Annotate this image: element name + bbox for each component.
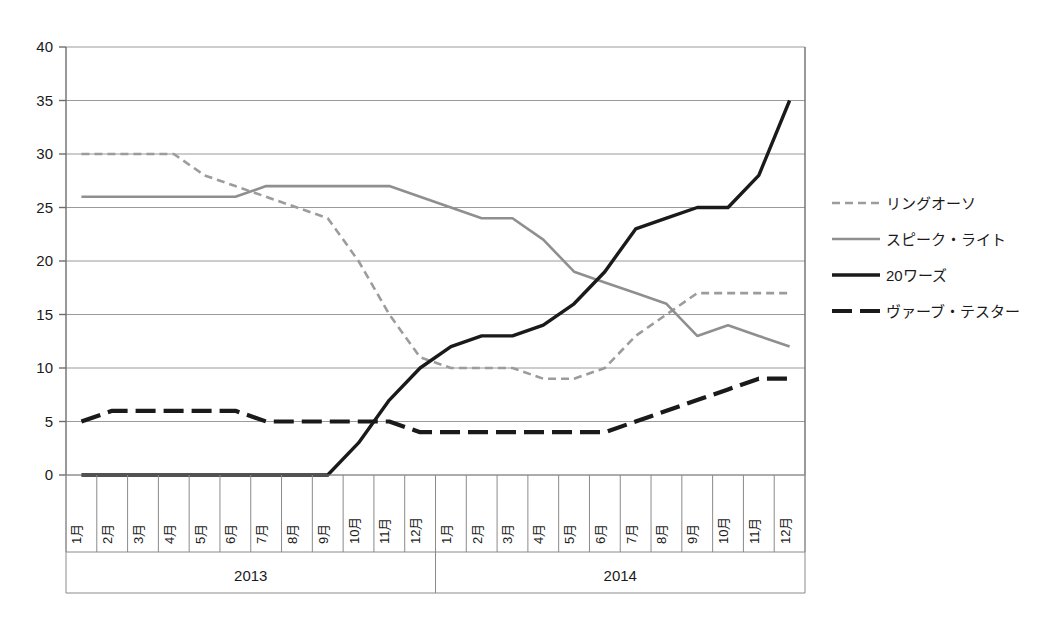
- x-month-label: 6月: [223, 524, 238, 544]
- x-month-label: 9月: [316, 524, 331, 544]
- x-month-label: 12月: [778, 517, 793, 544]
- series-layer: [81, 101, 789, 476]
- series-line-2: [81, 101, 789, 476]
- y-tick-label: 40: [36, 38, 53, 55]
- line-chart: 0510152025303540 1月2月3月4月5月6月7月8月9月10月11…: [0, 0, 1046, 619]
- legend: リングオーソスピーク・ライト20ワーズヴァーブ・テスター: [832, 195, 1020, 320]
- x-month-label: 10月: [347, 517, 362, 544]
- y-tick-label: 30: [36, 145, 53, 162]
- y-tick-label: 35: [36, 92, 53, 109]
- series-line-1: [81, 186, 789, 347]
- x-month-label: 12月: [408, 517, 423, 544]
- x-year-label: 2014: [604, 567, 637, 584]
- x-month-label: 4月: [531, 524, 546, 544]
- x-month-label: 1月: [439, 524, 454, 544]
- series-line-0: [81, 154, 789, 379]
- x-month-label: 2月: [470, 524, 485, 544]
- y-tick-label: 5: [45, 413, 53, 430]
- x-month-label: 8月: [654, 524, 669, 544]
- legend-label-2: 20ワーズ: [886, 267, 947, 284]
- x-month-label: 7月: [254, 524, 269, 544]
- legend-label-1: スピーク・ライト: [886, 231, 1006, 248]
- y-tick-label: 20: [36, 252, 53, 269]
- x-month-label: 4月: [162, 524, 177, 544]
- legend-label-3: ヴァーブ・テスター: [886, 303, 1020, 320]
- x-month-label: 5月: [562, 524, 577, 544]
- x-month-label: 2月: [100, 524, 115, 544]
- x-month-label: 3月: [131, 524, 146, 544]
- x-month-label: 5月: [193, 524, 208, 544]
- x-month-label: 11月: [747, 518, 762, 545]
- x-month-label: 8月: [285, 524, 300, 544]
- category-axis: 1月2月3月4月5月6月7月8月9月10月11月12月1月2月3月4月5月6月7…: [66, 475, 805, 593]
- x-year-label: 2013: [234, 567, 267, 584]
- legend-label-0: リングオーソ: [886, 195, 976, 212]
- chart-container: 0510152025303540 1月2月3月4月5月6月7月8月9月10月11…: [0, 0, 1046, 619]
- y-axis-ticks: 0510152025303540: [36, 38, 66, 483]
- x-month-label: 7月: [624, 524, 639, 544]
- y-tick-label: 10: [36, 359, 53, 376]
- y-tick-label: 25: [36, 199, 53, 216]
- x-month-label: 1月: [69, 524, 84, 544]
- x-month-label: 3月: [500, 524, 515, 544]
- x-month-label: 11月: [377, 518, 392, 545]
- x-month-label: 6月: [593, 524, 608, 544]
- x-month-label: 9月: [685, 524, 700, 544]
- x-month-label: 10月: [716, 517, 731, 544]
- y-tick-label: 0: [45, 466, 53, 483]
- series-line-3: [81, 379, 789, 433]
- y-tick-label: 15: [36, 306, 53, 323]
